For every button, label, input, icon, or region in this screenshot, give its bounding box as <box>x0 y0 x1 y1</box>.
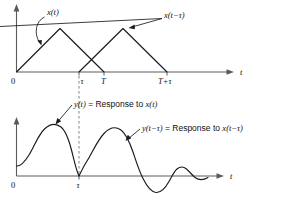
upper-tick-label-zero: 0 <box>11 76 15 86</box>
label-response-y-of-t-minus-tau: y(t−τ) = Response to x(t−τ) <box>141 123 243 133</box>
label-response-delayed-lhs: y(t−τ) <box>141 123 163 133</box>
response-curve-y-of-t-minus-tau <box>79 128 208 193</box>
lower-x-axis-arrowhead <box>217 173 225 179</box>
leader-line-y-of-t <box>58 105 73 122</box>
upper-axis-label-t: t <box>240 67 243 77</box>
triangle-pulse-x-of-t <box>17 29 105 73</box>
figure-container: x(t) x(t−τ) 0 τ T T+τ t <box>0 0 282 207</box>
upper-y-axis-arrowhead <box>14 4 20 12</box>
upper-tick-label-T: T <box>101 76 107 86</box>
response-panel: y(t) = Response to x(t) y(t−τ) = Respons… <box>11 99 243 193</box>
label-response-y-of-t-eq: = Response to <box>86 99 146 109</box>
upper-x-axis-arrowhead <box>227 69 235 75</box>
leader-arrowhead-x-of-t <box>37 40 42 46</box>
upper-panel: x(t) x(t−τ) 0 τ T T+τ t <box>0 4 243 86</box>
lower-tick-label-zero: 0 <box>11 180 15 190</box>
label-response-y-of-t-lhs: y(t) <box>73 99 86 109</box>
leader-line-x-of-t <box>36 17 44 43</box>
lower-axis-label-t: t <box>230 171 233 181</box>
upper-tick-label-tau: τ <box>81 76 85 86</box>
leader-arrowhead-x-of-t-minus-tau <box>129 24 135 29</box>
label-x-of-t: x(t) <box>46 7 59 17</box>
label-response-y-of-t-rhs: x(t) <box>145 99 158 109</box>
lower-y-axis-arrowhead <box>14 117 20 125</box>
label-response-delayed-rhs: x(t−τ) <box>221 123 243 133</box>
label-response-delayed-eq: = Response to <box>163 123 223 133</box>
lower-tick-label-tau: τ <box>77 180 81 190</box>
upper-tick-label-T-plus-tau: T+τ <box>158 76 172 86</box>
label-x-of-t-minus-tau: x(t−τ) <box>163 10 185 20</box>
triangle-pulse-x-of-t-minus-tau <box>79 29 167 73</box>
label-response-y-of-t: y(t) = Response to x(t) <box>73 99 158 109</box>
response-curve-y-of-t <box>17 124 80 176</box>
